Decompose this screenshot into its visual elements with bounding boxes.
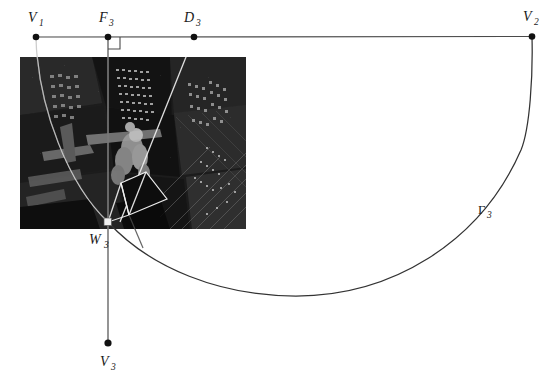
- point-marker-V1: [33, 34, 40, 41]
- label-W3-letter: W: [89, 232, 102, 247]
- label-W3-subscript: 3: [103, 240, 109, 250]
- figure-root: V 1 F 3 D 3 V 2 W 3 V 3 Γ 3: [0, 0, 558, 387]
- point-marker-D3: [191, 34, 198, 41]
- geometry-diagram: V 1 F 3 D 3 V 2 W 3 V 3 Γ 3: [0, 0, 558, 387]
- label-V1-letter: V: [28, 10, 38, 25]
- label-V3-letter: V: [100, 354, 110, 369]
- label-gamma3-letter: Γ: [478, 202, 486, 217]
- point-marker-F3: [105, 34, 112, 41]
- label-V2-letter: V: [523, 9, 533, 24]
- label-F3-subscript: 3: [108, 18, 114, 28]
- label-gamma3-subscript: 3: [486, 210, 492, 220]
- label-D3-subscript: 3: [195, 18, 201, 28]
- label-F3-letter: F: [98, 10, 108, 25]
- label-V1-subscript: 1: [39, 18, 44, 28]
- point-marker-V3: [104, 339, 111, 346]
- label-V3-subscript: 3: [110, 362, 116, 372]
- point-marker-W3: [104, 218, 112, 226]
- label-V2-subscript: 2: [534, 17, 539, 27]
- label-D3-letter: D: [183, 10, 194, 25]
- point-marker-V2: [529, 33, 536, 40]
